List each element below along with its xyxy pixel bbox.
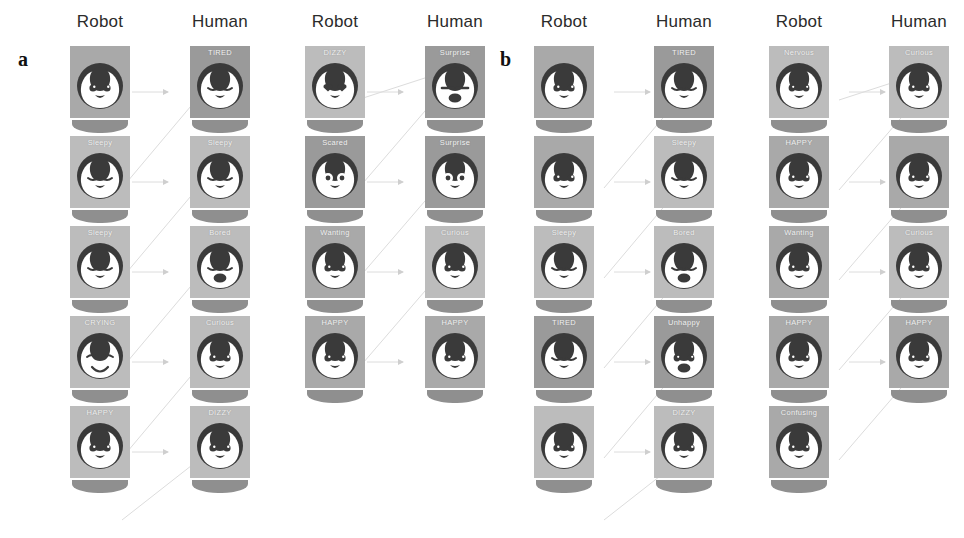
face-cell-ag2-robot-row1: DIZZY [275, 46, 395, 136]
robot-body-bar [656, 120, 712, 133]
face-cell-ag1-robot-row1 [40, 46, 160, 136]
face-card [534, 46, 594, 118]
robot-body-bar [656, 390, 712, 403]
face-card: HAPPY [305, 316, 365, 388]
face-card: Bored [654, 226, 714, 298]
emotion-label: Bored [190, 228, 250, 237]
face-card: Confusing [769, 406, 829, 478]
robot-body-bar [536, 480, 592, 493]
robot-body-bar [771, 300, 827, 313]
robot-body-bar [307, 120, 363, 133]
panel-b-group1-human-header: Human [624, 12, 744, 32]
face-card: DIZZY [190, 406, 250, 478]
robot-body-bar [536, 120, 592, 133]
panel-b-group2-human-column: CuriousCuriousHAPPY [859, 46, 964, 496]
face-cell-bg2-human-row3: Curious [859, 226, 964, 316]
face-card: Surprise [425, 136, 485, 208]
emotion-label: Curious [425, 228, 485, 237]
emotion-label: DIZZY [305, 48, 365, 57]
robot-body-bar [72, 120, 128, 133]
panel-a-group2-robot-column: DIZZYScaredWantingHAPPY [275, 46, 395, 496]
emotion-label: Wanting [769, 228, 829, 237]
face-card: DIZZY [305, 46, 365, 118]
robot-body-bar [427, 390, 483, 403]
robot-body-bar [307, 390, 363, 403]
emotion-label: HAPPY [889, 318, 949, 327]
face-card: Sleepy [70, 136, 130, 208]
robot-body-bar [656, 300, 712, 313]
face-card: Wanting [769, 226, 829, 298]
face-card: Sleepy [70, 226, 130, 298]
face-card: Curious [889, 46, 949, 118]
face-card: Curious [889, 226, 949, 298]
face-card: HAPPY [769, 316, 829, 388]
face-card: DIZZY [654, 406, 714, 478]
emotion-label: HAPPY [769, 138, 829, 147]
robot-body-bar [427, 210, 483, 223]
face-cell-bg1-robot-row2 [504, 136, 624, 226]
robot-body-bar [536, 210, 592, 223]
face-cell-bg1-robot-row3: Sleepy [504, 226, 624, 316]
robot-body-bar [192, 300, 248, 313]
face-cell-ag2-robot-row4: HAPPY [275, 316, 395, 406]
face-card: CRYING [70, 316, 130, 388]
robot-body-bar [891, 300, 947, 313]
face-card: HAPPY [425, 316, 485, 388]
face-cell-bg2-robot-row3: Wanting [739, 226, 859, 316]
face-card: HAPPY [769, 136, 829, 208]
face-card [534, 406, 594, 478]
robot-body-bar [72, 210, 128, 223]
face-card: HAPPY [889, 316, 949, 388]
panel-letter-a: a [18, 48, 28, 71]
emotion-label: Nervous [769, 48, 829, 57]
face-cell-ag1-human-row1: TIRED [160, 46, 280, 136]
face-cell-bg1-human-row1: TIRED [624, 46, 744, 136]
emotion-label: Surprise [425, 138, 485, 147]
face-card: Scared [305, 136, 365, 208]
face-cell-bg2-robot-row2: HAPPY [739, 136, 859, 226]
face-cell-bg1-robot-row5 [504, 406, 624, 496]
emotion-label: Curious [889, 48, 949, 57]
face-cell-bg2-robot-row1: Nervous [739, 46, 859, 136]
face-cell-ag1-human-row3: Bored [160, 226, 280, 316]
emotion-label: Sleepy [70, 138, 130, 147]
robot-body-bar [192, 120, 248, 133]
face-cell-bg2-robot-row5: Confusing [739, 406, 859, 496]
robot-body-bar [536, 300, 592, 313]
face-card: Bored [190, 226, 250, 298]
robot-body-bar [891, 210, 947, 223]
face-cell-bg2-robot-row4: HAPPY [739, 316, 859, 406]
panel-b-group2-robot-column: NervousHAPPYWantingHAPPYConfusing [739, 46, 859, 496]
robot-body-bar [192, 210, 248, 223]
face-cell-bg2-human-row2 [859, 136, 964, 226]
face-card: Surprise [425, 46, 485, 118]
face-cell-bg2-human-row4: HAPPY [859, 316, 964, 406]
face-card: Sleepy [654, 136, 714, 208]
emotion-label: HAPPY [425, 318, 485, 327]
emotion-label: TIRED [190, 48, 250, 57]
panel-a-group1-human-header: Human [160, 12, 280, 32]
robot-body-bar [307, 210, 363, 223]
emotion-label: HAPPY [70, 408, 130, 417]
face-cell-ag1-human-row4: Curious [160, 316, 280, 406]
robot-body-bar [427, 120, 483, 133]
emotion-label: CRYING [70, 318, 130, 327]
face-card: HAPPY [70, 406, 130, 478]
face-cell-ag2-robot-row2: Scared [275, 136, 395, 226]
robot-body-bar [771, 480, 827, 493]
robot-body-bar [891, 390, 947, 403]
face-cell-bg1-robot-row1 [504, 46, 624, 136]
panel-a: a Robot Human Robot Human SleepySleepyCR… [0, 0, 482, 538]
robot-body-bar [771, 120, 827, 133]
emotion-label: Bored [654, 228, 714, 237]
panel-b-group2-robot-header: Robot [739, 12, 859, 32]
emotion-label: Scared [305, 138, 365, 147]
robot-body-bar [891, 120, 947, 133]
robot-body-bar [771, 390, 827, 403]
face-card: Curious [190, 316, 250, 388]
panel-a-group1-robot-header: Robot [40, 12, 160, 32]
face-cell-ag1-robot-row3: Sleepy [40, 226, 160, 316]
face-cell-ag1-human-row2: Sleepy [160, 136, 280, 226]
face-cell-bg1-robot-row4: TIRED [504, 316, 624, 406]
robot-body-bar [192, 480, 248, 493]
